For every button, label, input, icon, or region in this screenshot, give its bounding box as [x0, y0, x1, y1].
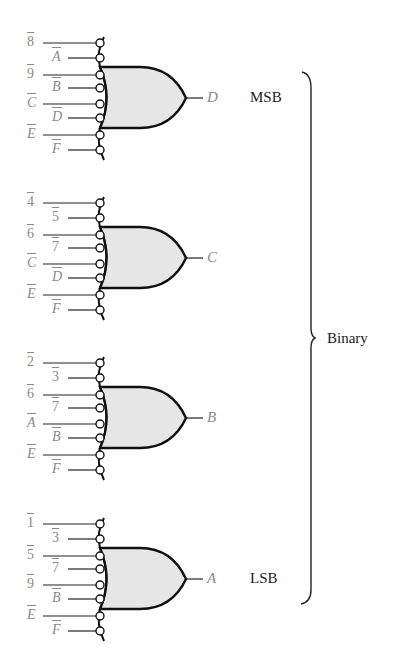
- input-label: B: [52, 591, 61, 605]
- input-label: 8: [27, 35, 34, 49]
- input-label-text: F: [52, 622, 61, 637]
- input-label: 7: [52, 400, 59, 414]
- inversion-bubble: [96, 199, 104, 207]
- input-label-text: F: [52, 461, 61, 476]
- input-label: 6: [27, 227, 34, 241]
- inversion-bubble: [96, 231, 104, 239]
- overbar-not-icon: [27, 574, 34, 575]
- input-label-text: B: [52, 79, 61, 94]
- inversion-bubble: [96, 552, 104, 560]
- inversion-bubble: [96, 612, 104, 620]
- overbar-not-icon: [52, 237, 59, 238]
- input-label: 5: [27, 548, 34, 562]
- inversion-bubble: [96, 39, 104, 47]
- input-label-text: 3: [52, 369, 59, 384]
- overbar-not-icon: [52, 397, 59, 398]
- input-label-text: 1: [27, 515, 34, 530]
- overbar-not-icon: [27, 224, 34, 225]
- input-label: A: [52, 50, 61, 64]
- overbar-not-icon: [27, 32, 34, 33]
- output-label: C: [207, 250, 217, 265]
- overbar-not-icon: [27, 253, 36, 254]
- input-label: F: [52, 462, 61, 476]
- input-label: 3: [52, 370, 59, 384]
- input-label-text: 8: [27, 34, 34, 49]
- overbar-not-icon: [27, 384, 34, 385]
- inversion-bubble: [96, 114, 104, 122]
- inversion-bubble: [96, 84, 104, 92]
- inversion-bubble: [96, 291, 104, 299]
- bit-significance-label: LSB: [250, 571, 278, 586]
- input-label: D: [52, 110, 62, 124]
- input-label-text: 6: [27, 386, 34, 401]
- overbar-not-icon: [52, 107, 62, 108]
- input-label-text: E: [27, 126, 36, 141]
- inversion-bubble: [96, 71, 104, 79]
- binary-brace-label: Binary: [327, 331, 368, 346]
- input-label-text: 7: [52, 399, 59, 414]
- inversion-bubble: [96, 451, 104, 459]
- input-label: E: [27, 127, 36, 141]
- inversion-bubble: [96, 214, 104, 222]
- inversion-bubble: [96, 581, 104, 589]
- input-label: B: [52, 80, 61, 94]
- inversion-bubble: [96, 374, 104, 382]
- input-label-text: F: [52, 301, 61, 316]
- overbar-not-icon: [52, 528, 59, 529]
- inversion-bubble: [96, 466, 104, 474]
- overbar-not-icon: [52, 367, 59, 368]
- input-label-text: E: [27, 286, 36, 301]
- input-label-text: 3: [52, 530, 59, 545]
- input-label-text: 7: [52, 560, 59, 575]
- inversion-bubble: [96, 244, 104, 252]
- inversion-bubble: [96, 131, 104, 139]
- overbar-not-icon: [52, 267, 62, 268]
- input-label-text: E: [27, 607, 36, 622]
- overbar-not-icon: [52, 77, 61, 78]
- input-label-text: C: [27, 255, 36, 270]
- input-label-text: B: [52, 429, 61, 444]
- overbar-not-icon: [27, 513, 34, 514]
- input-label-text: 2: [27, 354, 34, 369]
- or-gate-body: [100, 67, 186, 128]
- overbar-not-icon: [52, 47, 61, 48]
- overbar-not-icon: [27, 284, 36, 285]
- overbar-not-icon: [27, 605, 36, 606]
- inversion-bubble: [96, 146, 104, 154]
- inversion-bubble: [96, 54, 104, 62]
- input-label-text: 9: [27, 66, 34, 81]
- input-label: 6: [27, 387, 34, 401]
- overbar-not-icon: [52, 558, 59, 559]
- inversion-bubble: [96, 627, 104, 635]
- inversion-bubble: [96, 260, 104, 268]
- input-label: 9: [27, 67, 34, 81]
- input-label: C: [27, 96, 36, 110]
- output-label: A: [207, 571, 216, 586]
- input-label: B: [52, 430, 61, 444]
- inversion-bubble: [96, 565, 104, 573]
- input-label: C: [27, 256, 36, 270]
- inversion-bubble: [96, 359, 104, 367]
- or-gate-body: [100, 548, 186, 609]
- input-label-text: A: [27, 415, 36, 430]
- input-label-text: B: [52, 590, 61, 605]
- inversion-bubble: [96, 420, 104, 428]
- input-label: E: [27, 287, 36, 301]
- input-label: A: [27, 416, 36, 430]
- input-label-text: C: [27, 95, 36, 110]
- overbar-not-icon: [27, 93, 36, 94]
- overbar-not-icon: [27, 444, 36, 445]
- input-label: 2: [27, 355, 34, 369]
- input-label: 3: [52, 531, 59, 545]
- input-label: 1: [27, 516, 34, 530]
- bit-significance-label: MSB: [250, 90, 282, 105]
- overbar-not-icon: [27, 413, 36, 414]
- inversion-bubble: [96, 535, 104, 543]
- overbar-not-icon: [52, 588, 61, 589]
- input-label-text: D: [52, 269, 62, 284]
- or-gate-body: [100, 227, 186, 288]
- input-label-text: E: [27, 446, 36, 461]
- overbar-not-icon: [52, 299, 61, 300]
- input-label: F: [52, 623, 61, 637]
- inversion-bubble: [96, 434, 104, 442]
